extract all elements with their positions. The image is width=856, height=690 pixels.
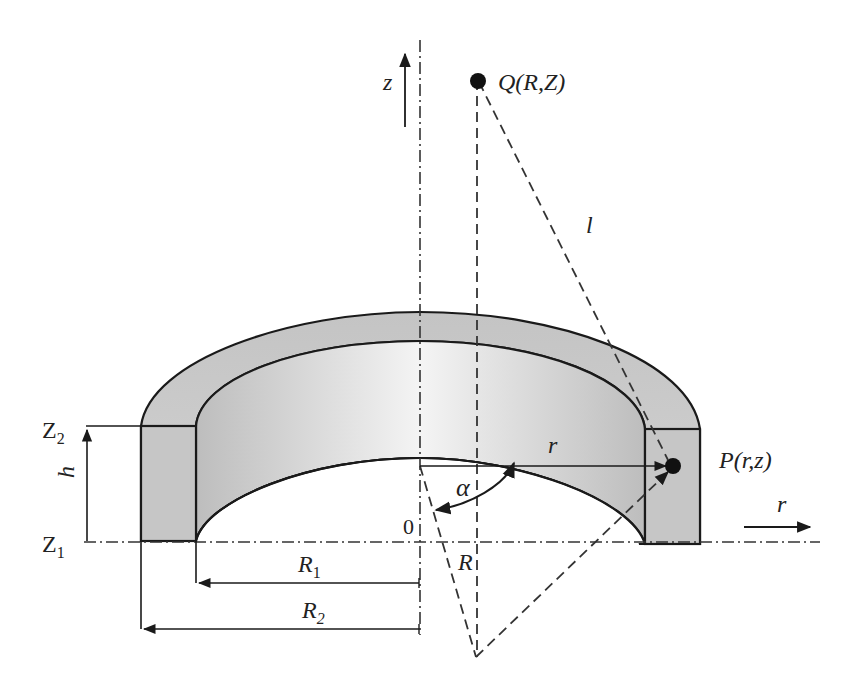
inner-radius-label: R1 <box>297 551 321 581</box>
point-q <box>470 73 486 89</box>
origin-label: 0 <box>403 514 414 539</box>
r-axis-label: r <box>777 491 787 517</box>
point-p-label: P(r,z) <box>718 447 772 473</box>
source-radius-label: R <box>457 549 473 575</box>
outer-radius-label: R2 <box>301 597 325 627</box>
point-p <box>665 458 681 474</box>
annular-ring-diagram: z Q(R,Z) l r P(r,z) r α 0 R R1 R2 h Z2 Z… <box>0 0 856 690</box>
ring-left-section <box>141 426 196 541</box>
distance-l-label: l <box>586 212 593 238</box>
z-bottom-label: Z1 <box>42 531 65 561</box>
point-q-label: Q(R,Z) <box>498 69 565 95</box>
z-axis-label: z <box>382 69 393 95</box>
radius-r-label: r <box>548 432 558 458</box>
height-h-label: h <box>53 466 79 478</box>
z-top-label: Z2 <box>42 417 65 447</box>
angle-alpha-label: α <box>456 473 471 502</box>
